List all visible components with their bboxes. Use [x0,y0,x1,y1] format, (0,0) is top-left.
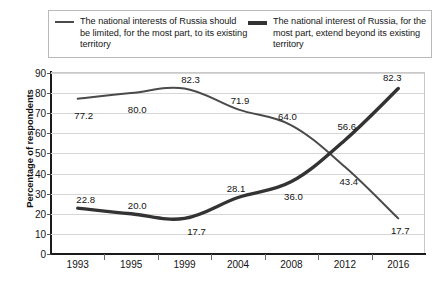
x-tick-label: 2012 [334,259,356,270]
data-label: 77.2 [74,109,93,120]
y-tick-label: 60 [35,128,46,139]
x-tick-mark [104,254,105,260]
y-tick-label: 90 [35,68,46,79]
x-tick-mark [372,254,373,260]
x-tick-mark [265,254,266,260]
x-tick-label: 2016 [387,259,409,270]
legend-line-swatch-icon [55,21,74,23]
plot-area: 0102030405060708090 19931995199920042008… [51,72,425,253]
y-tick-label: 40 [35,168,46,179]
chart-legend: The national interests of Russia should … [48,10,432,58]
data-label: 43.4 [340,175,359,186]
x-tick-label: 1993 [67,259,89,270]
y-tick-label: 30 [35,188,46,199]
legend-label-series-2: The national interest of Russia, for the… [273,16,427,51]
legend-entry-series-1: The national interests of Russia should … [55,16,248,51]
x-tick-label: 1999 [173,259,195,270]
legend-label-series-1: The national interests of Russia should … [80,16,248,51]
data-label: 80.0 [128,104,147,115]
data-label: 28.1 [227,183,246,194]
data-label: 17.7 [187,226,206,237]
data-label: 56.6 [338,121,357,132]
data-label: 36.0 [284,190,303,201]
y-tick-label: 50 [35,148,46,159]
chart-root: The national interests of Russia should … [0,0,440,284]
data-label: 17.7 [391,225,410,236]
x-tick-label: 1995 [120,259,142,270]
y-tick-label: 10 [35,228,46,239]
y-tick-label: 70 [35,108,46,119]
legend-entry-series-2: The national interest of Russia, for the… [248,16,427,51]
x-tick-mark [211,254,212,260]
data-label: 82.3 [181,74,200,85]
data-label: 64.0 [278,111,297,122]
data-label: 20.0 [128,199,147,210]
x-tick-label: 2008 [280,259,302,270]
series-line-2 [78,88,399,219]
data-label: 82.3 [383,72,402,83]
y-tick-label: 20 [35,208,46,219]
y-tick-label: 80 [35,88,46,99]
legend-line-swatch-icon [248,21,267,25]
x-tick-label: 2004 [227,259,249,270]
y-tick-mark [47,254,51,255]
data-label: 71.9 [231,95,250,106]
y-axis-title: Percentage of respondents [24,59,35,239]
data-label: 22.8 [76,194,95,205]
x-tick-mark [318,254,319,260]
x-tick-mark [158,254,159,260]
y-tick-label: 0 [40,249,46,260]
